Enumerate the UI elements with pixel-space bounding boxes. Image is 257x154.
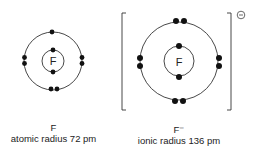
electron (22, 55, 27, 60)
diagram-canvas: F F (0, 0, 257, 154)
left-bracket (122, 13, 126, 110)
ion-label: F⁻ (128, 124, 230, 135)
electron (80, 55, 85, 60)
electron (55, 87, 60, 92)
electron (50, 30, 55, 35)
electron (22, 61, 27, 66)
electron (137, 55, 143, 61)
electron (176, 74, 182, 80)
electron (216, 55, 222, 61)
electron (181, 18, 187, 24)
electron (216, 63, 222, 69)
electron (172, 98, 178, 104)
electron (173, 18, 179, 24)
electron (51, 70, 56, 75)
nucleus-symbol: F (176, 56, 183, 68)
fluorine-atom: F (22, 30, 84, 92)
fluoride-ion: F (122, 11, 245, 110)
electron (80, 61, 85, 66)
electron (137, 63, 143, 69)
electron (51, 48, 56, 53)
ion-caption: ionic radius 136 pm (128, 135, 230, 146)
electron (49, 87, 54, 92)
right-bracket (227, 13, 231, 110)
electron (180, 98, 186, 104)
nucleus-symbol: F (50, 55, 57, 67)
atom-caption: atomic radius 72 pm (0, 133, 107, 144)
electron (176, 43, 182, 49)
atom-label: F (0, 122, 107, 133)
